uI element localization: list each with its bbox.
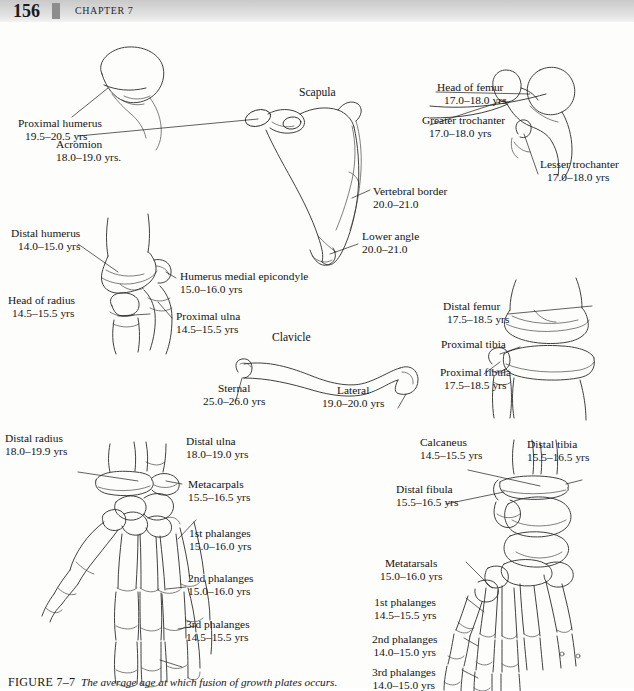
callout-foot-2nd-phalanges: 2nd phalanges 14.0–15.0 yrs [372, 633, 437, 658]
figure-caption-text: The average age at which fusion of growt… [81, 676, 337, 688]
callout-distal-humerus: Distal humerus 14.0–15.0 yrs [11, 227, 80, 252]
callout-name: Acromion [56, 138, 121, 151]
callout-age: 14.5–15.5 yrs [420, 449, 482, 462]
callout-head-of-radius: Head of radius 14.5–15.5 yrs [8, 294, 75, 319]
callout-acromion: Acromion 18.0–19.0 yrs. [56, 138, 121, 163]
callout-name: Distal fibula [396, 483, 458, 496]
callout-distal-ulna: Distal ulna 18.0–19.0 yrs [186, 435, 248, 460]
callout-name: Distal ulna [186, 435, 248, 448]
callout-age: 14.5–15.5 yrs [186, 631, 250, 644]
callout-name: 1st phalanges [189, 527, 251, 540]
callout-age: 15.0–16.0 yrs [188, 585, 253, 598]
callout-name: Distal humerus [11, 227, 80, 240]
callout-distal-tibia: Distal tibia 15.5–16.5 yrs [527, 438, 589, 463]
callout-name: 2nd phalanges [188, 572, 253, 585]
callout-lesser-trochanter: Lesser trochanter 17.0–18.0 yrs [540, 158, 619, 183]
callout-age: 15.5–16.5 yrs [188, 491, 250, 504]
callout-calcaneus: Calcaneus 14.5–15.5 yrs [420, 436, 482, 461]
foot-drawing [444, 440, 582, 691]
callout-age: 15.0–16.0 yrs [189, 540, 251, 553]
callout-name: Distal femur [443, 300, 509, 313]
callout-distal-fibula: Distal fibula 15.5–16.5 yrs [396, 483, 458, 508]
clavicle-title: Clavicle [272, 331, 311, 344]
callout-vertebral-border: Vertebral border 20.0–21.0 [373, 185, 447, 210]
callout-head-of-femur: Head of femur 17.0–18.0 yrs [437, 81, 506, 106]
chapter-label: CHAPTER 7 [75, 5, 133, 16]
callout-age: 18.0–19.0 yrs [186, 448, 248, 461]
callout-hand-2nd-phalanges: 2nd phalanges 15.0–16.0 yrs [188, 572, 253, 597]
callout-age: 14.0–15.0 yrs [11, 240, 80, 253]
callout-name: 3rd phalanges [186, 618, 250, 631]
callout-age: 14.5–15.5 yrs [8, 307, 75, 320]
callout-sternal: Sternal 25.0–26.0 yrs [203, 382, 265, 407]
callout-greater-trochanter: Greater trochanter 17.0–18.0 yrs [422, 114, 505, 139]
callout-age: 18.0–19.9 yrs [5, 445, 67, 458]
callout-lateral: Lateral 19.0–20.0 yrs [322, 384, 384, 409]
callout-name: Proximal tibia [441, 338, 506, 351]
callout-age: 19.0–20.0 yrs [322, 397, 384, 410]
callout-distal-femur: Distal femur 17.5–18.5 yrs [443, 300, 509, 325]
callout-proximal-ulna: Proximal ulna 14.5–15.5 yrs [176, 310, 240, 335]
callout-proximal-fibula: Proximal fibula 17.5–18.5 yrs [440, 366, 511, 391]
page-number: 156 [13, 1, 40, 22]
callout-distal-radius: Distal radius 18.0–19.9 yrs [5, 432, 67, 457]
callout-name: Distal radius [5, 432, 67, 445]
callout-lower-angle: Lower angle 20.0–21.0 [362, 230, 419, 255]
scapula-drawing [78, 102, 370, 265]
figure-caption: FIGURE 7–7 The average age at which fusi… [8, 676, 628, 689]
callout-age: 20.0–21.0 [362, 243, 419, 256]
callout-name: Metatarsals [380, 557, 442, 570]
callout-name: Lower angle [362, 230, 419, 243]
elbow-drawing [78, 214, 176, 354]
callout-name: Head of femur [437, 81, 506, 94]
callout-name: Lesser trochanter [540, 158, 619, 171]
callout-age: 15.5–16.5 yrs [527, 451, 589, 464]
callout-name: Head of radius [8, 294, 75, 307]
callout-hand-1st-phalanges: 1st phalanges 15.0–16.0 yrs [189, 527, 251, 552]
callout-name: Humerus medial epicondyle [180, 270, 308, 283]
callout-proximal-tibia: Proximal tibia [441, 338, 506, 351]
callout-name: Proximal humerus [18, 117, 102, 130]
callout-age: 17.0–18.0 yrs [540, 171, 619, 184]
callout-age: 17.5–18.5 yrs [443, 313, 509, 326]
page-running-head: 156 CHAPTER 7 [0, 0, 634, 22]
callout-age: 15.0–16.0 yrs [380, 570, 442, 583]
callout-name: Calcaneus [420, 436, 482, 449]
figure-illustration: Scapula Clavicle Proximal humerus 19.5–2… [0, 22, 634, 688]
callout-name: 1st phalanges [374, 596, 436, 609]
callout-age: 14.5–15.5 yrs [374, 609, 436, 622]
callout-age: 15.0–16.0 yrs [180, 283, 308, 296]
callout-age: 17.0–18.0 yrs [437, 94, 506, 107]
figure-caption-label: FIGURE 7–7 [8, 676, 75, 689]
callout-name: Greater trochanter [422, 114, 505, 127]
callout-name: 2nd phalanges [372, 633, 437, 646]
callout-metatarsals: Metatarsals 15.0–16.0 yrs [380, 557, 442, 582]
callout-name: Metacarpals [188, 478, 250, 491]
callout-age: 14.0–15.0 yrs [372, 646, 437, 659]
hand-drawing [42, 442, 212, 687]
callout-name: Proximal fibula [440, 366, 511, 379]
callout-name: Vertebral border [373, 185, 447, 198]
callout-age: 25.0–26.0 yrs [203, 395, 265, 408]
callout-name: Sternal [203, 382, 265, 395]
callout-age: 17.5–18.5 yrs [440, 379, 511, 392]
scapula-title: Scapula [299, 86, 336, 99]
callout-name: Distal tibia [527, 438, 589, 451]
callout-foot-1st-phalanges: 1st phalanges 14.5–15.5 yrs [374, 596, 436, 621]
callout-age: 14.5–15.5 yrs [176, 323, 240, 336]
callout-name: Lateral [322, 384, 384, 397]
callout-hand-3rd-phalanges: 3rd phalanges 14.5–15.5 yrs [186, 618, 250, 643]
callout-name: Proximal ulna [176, 310, 240, 323]
header-divider-block [52, 3, 60, 19]
callout-age: 20.0–21.0 [373, 198, 447, 211]
callout-humerus-medial-epicondyle: Humerus medial epicondyle 15.0–16.0 yrs [180, 270, 308, 295]
callout-age: 15.5–16.5 yrs [396, 496, 458, 509]
callout-age: 17.0–18.0 yrs [422, 127, 505, 140]
callout-age: 18.0–19.0 yrs. [56, 151, 121, 164]
callout-metacarpals: Metacarpals 15.5–16.5 yrs [188, 478, 250, 503]
